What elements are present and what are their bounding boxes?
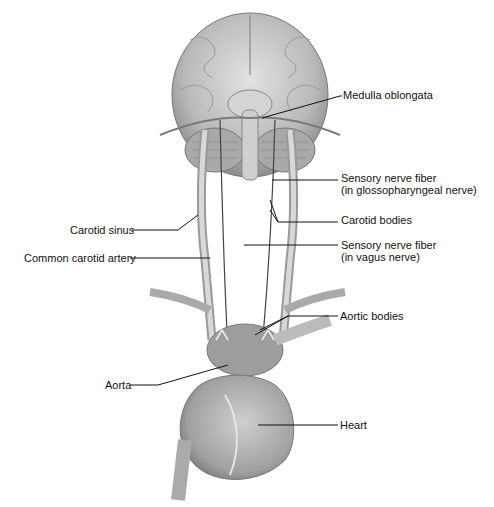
aortic-arch bbox=[207, 320, 330, 376]
label-aorta: Aorta bbox=[105, 379, 131, 391]
label-aortic-bodies: Aortic bodies bbox=[340, 310, 404, 322]
label-glosso-line2: (in glossopharyngeal nerve) bbox=[341, 184, 477, 196]
heart bbox=[178, 375, 294, 500]
label-vagus-line2: (in vagus nerve) bbox=[341, 251, 436, 263]
label-vagus-line1: Sensory nerve fiber bbox=[341, 239, 436, 251]
label-common-carotid-artery: Common carotid artery bbox=[24, 252, 136, 264]
brain bbox=[172, 13, 328, 180]
label-heart: Heart bbox=[340, 419, 367, 431]
label-sensory-nerve-vagus: Sensory nerve fiber (in vagus nerve) bbox=[341, 239, 436, 263]
label-glosso-line1: Sensory nerve fiber bbox=[341, 172, 477, 184]
label-sensory-nerve-glossopharyngeal: Sensory nerve fiber (in glossopharyngeal… bbox=[341, 172, 477, 196]
label-medulla-oblongata: Medulla oblongata bbox=[343, 89, 433, 101]
label-carotid-bodies: Carotid bodies bbox=[341, 214, 412, 226]
label-carotid-sinus: Carotid sinus bbox=[70, 224, 134, 236]
